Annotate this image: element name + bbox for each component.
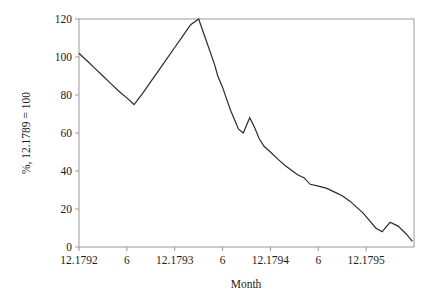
y-tick-label: 20 [61,203,73,215]
x-tick-label: 12.1793 [156,254,194,266]
y-tick-label: 0 [66,241,72,253]
x-axis-title: Month [231,278,262,290]
x-tick-label: 6 [315,254,321,266]
y-tick-label: 60 [61,127,73,139]
y-tick-label: 120 [55,13,73,25]
line-chart: 020406080100120 12.1792612.1793612.17946… [0,0,434,293]
x-tick-label: 6 [124,254,130,266]
chart-figure: 020406080100120 12.1792612.1793612.17946… [0,0,434,293]
x-tick-label: 12.1795 [347,254,385,266]
x-tick-label: 12.1792 [60,254,98,266]
y-axis-title: %, 12.1789 = 100 [20,92,33,174]
x-tick-label: 6 [220,254,226,266]
plot-background [0,0,434,293]
y-tick-label: 40 [61,165,73,177]
y-tick-label: 80 [61,89,73,101]
x-tick-label: 12.1794 [252,254,290,266]
y-tick-label: 100 [55,51,73,63]
